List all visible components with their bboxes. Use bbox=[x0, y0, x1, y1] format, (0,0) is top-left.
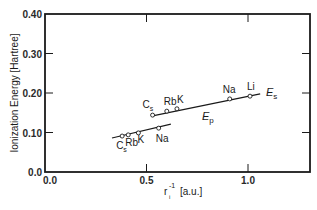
y-axis-title: Ionization Energy [Hartree] bbox=[9, 33, 20, 152]
data-point-k bbox=[175, 107, 179, 111]
point-label: K bbox=[137, 134, 144, 145]
ionization-energy-chart: 0.00.51.00.00.100.200.300.40 CsRbKNaLiCs… bbox=[0, 0, 317, 210]
x-axis-title: r i -1 [a.u.] bbox=[164, 182, 202, 200]
x-axis-title-r: r bbox=[164, 186, 168, 197]
x-tick-label: 1.0 bbox=[241, 175, 255, 186]
y-tick-label: 0.10 bbox=[23, 128, 43, 139]
point-label: Na bbox=[156, 133, 169, 144]
data-point-cs bbox=[120, 134, 124, 138]
y-tick-label: 0.40 bbox=[23, 9, 43, 20]
y-tick-label: 0.30 bbox=[23, 49, 43, 60]
x-tick-label: 0.5 bbox=[140, 175, 154, 186]
data-point-cs bbox=[151, 113, 155, 117]
point-label: Cs bbox=[143, 99, 154, 112]
series-e-p: CsRbKNa bbox=[112, 124, 171, 153]
point-label: Li bbox=[247, 81, 255, 92]
data-series: CsRbKNaLiCsRbKNaEsEp bbox=[112, 81, 277, 153]
x-tick-label: 0.0 bbox=[43, 175, 57, 186]
x-axis-title-sup: -1 bbox=[169, 182, 175, 189]
y-tick-label: 0.20 bbox=[23, 88, 43, 99]
series-label-s: Es bbox=[266, 86, 277, 101]
x-axis-title-sub: i bbox=[169, 194, 170, 200]
data-point-rb bbox=[165, 109, 169, 113]
x-axis-title-unit: [a.u.] bbox=[180, 186, 202, 197]
point-label: K bbox=[177, 94, 184, 105]
data-point-na bbox=[228, 97, 232, 101]
point-label: Na bbox=[223, 84, 236, 95]
data-point-li bbox=[248, 94, 252, 98]
data-point-na bbox=[157, 126, 161, 130]
point-label: Rb bbox=[164, 96, 177, 107]
y-tick-label: 0.0 bbox=[28, 167, 42, 178]
series-label-p: Ep bbox=[202, 110, 214, 125]
